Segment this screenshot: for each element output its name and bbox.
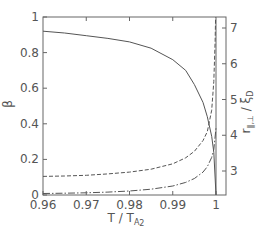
y-tick-label: 0.6	[20, 81, 39, 95]
y-right-tick-label: 5	[230, 93, 238, 107]
chart: 0.960.970.980.991 00.20.40.60.81 34567 T…	[0, 0, 262, 238]
y-right-axis-title: r∥,⊥ / ξD	[239, 91, 255, 134]
series-group	[43, 17, 216, 195]
x-axis: 0.960.970.980.991	[30, 17, 220, 212]
y-tick-label: 0.8	[20, 46, 39, 60]
y-right-tick-label: 7	[230, 21, 238, 35]
x-tick-label: 0.98	[116, 198, 143, 212]
y-tick-label: 0	[31, 188, 39, 202]
y-tick-label: 1	[31, 10, 39, 24]
y-right-tick-label: 4	[230, 128, 238, 142]
x-tick-label: 1	[212, 198, 220, 212]
x-axis-title: T / TA2	[107, 211, 145, 228]
x-tick-label: 0.97	[73, 198, 100, 212]
y-right-tick-label: 3	[230, 164, 238, 178]
y-tick-label: 0.2	[20, 152, 39, 166]
y-axis-title-beta: β	[1, 100, 15, 108]
r-perp-curve-dashdot	[43, 128, 216, 193]
y-right-tick-label: 6	[230, 57, 238, 71]
y-axis-right: 34567	[222, 21, 238, 178]
beta-curve-solid	[43, 31, 216, 195]
y-tick-label: 0.4	[20, 117, 39, 131]
r-parallel-curve-dashed	[43, 17, 216, 176]
x-tick-label: 0.99	[159, 198, 186, 212]
